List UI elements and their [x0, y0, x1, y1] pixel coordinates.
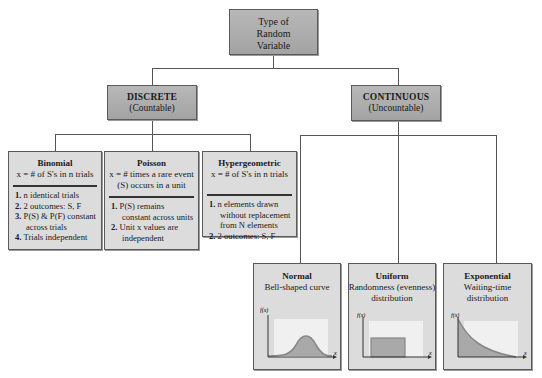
- binomial-item-2: 2. 2 outcomes: S, F: [15, 201, 97, 212]
- continuous-subtitle: (Uncountable): [352, 103, 440, 114]
- connector-continuous-down: [398, 121, 399, 263]
- hypergeometric-definition: x = # of S's in n trials: [206, 169, 293, 180]
- connector-continuous-horizontal: [300, 135, 497, 136]
- binomial-divider: [13, 185, 97, 187]
- binomial-name: Binomial: [12, 158, 98, 169]
- normal-name: Normal: [254, 271, 340, 282]
- exponential-decay-plot: f(x) x: [450, 313, 528, 363]
- continuous-node: CONTINUOUS (Uncountable): [351, 85, 441, 121]
- normal-bell-curve-plot: f(x) x: [260, 305, 338, 363]
- hypergeometric-name: Hypergeometric: [206, 158, 293, 169]
- poisson-item-2: 2. Unit x values are independent: [111, 222, 194, 243]
- exponential-name: Exponential: [444, 271, 531, 282]
- hypergeometric-item-1: 1. n elements drawn without replacement …: [209, 199, 292, 231]
- connector-to-exponential: [496, 135, 497, 263]
- uniform-rectangle-plot: f(x) x: [355, 313, 433, 363]
- root-title-line-3: Variable: [230, 40, 317, 52]
- poisson-definition: x = # times a rare event (S) occurs in a…: [108, 169, 195, 191]
- connector-discrete-horizontal: [55, 134, 251, 135]
- connector-to-binomial: [55, 134, 56, 151]
- svg-text:f(x): f(x): [357, 313, 365, 319]
- connector-to-continuous: [398, 68, 399, 85]
- connector-to-hypergeometric: [250, 134, 251, 151]
- hypergeometric-node: Hypergeometric x = # of S's in n trials …: [202, 151, 297, 237]
- svg-text:x: x: [428, 350, 432, 356]
- normal-node: Normal Bell-shaped curve f(x) x: [253, 263, 341, 370]
- hypergeometric-divider: [207, 194, 292, 196]
- binomial-node: Binomial x = # of S's in n trials 1. n i…: [8, 151, 102, 250]
- connector-discrete-down: [152, 120, 153, 151]
- svg-text:x: x: [333, 350, 337, 356]
- connector-root-down: [273, 55, 274, 68]
- poisson-divider: [109, 196, 194, 198]
- svg-text:f(x): f(x): [260, 307, 268, 314]
- discrete-title: DISCRETE: [108, 86, 196, 103]
- exponential-description-line-1: Waiting-time: [444, 282, 531, 293]
- discrete-subtitle: (Countable): [108, 103, 196, 114]
- root-title-line-1: Type of: [230, 16, 317, 28]
- uniform-description-line-2: distribution: [349, 293, 435, 304]
- root-node: Type of Random Variable: [229, 9, 318, 55]
- poisson-item-1: 1. P(S) remains constant across units: [111, 201, 194, 222]
- discrete-node: DISCRETE (Countable): [107, 85, 197, 120]
- normal-description: Bell-shaped curve: [254, 282, 340, 293]
- binomial-item-3: 3. P(S) & P(F) constant across trials: [15, 211, 97, 232]
- uniform-name: Uniform: [349, 271, 435, 282]
- connector-top-horizontal: [152, 68, 399, 69]
- exponential-description-line-2: distribution: [444, 293, 531, 304]
- poisson-node: Poisson x = # times a rare event (S) occ…: [104, 151, 199, 250]
- connector-to-discrete: [152, 68, 153, 85]
- binomial-definition: x = # of S's in n trials: [12, 169, 98, 180]
- binomial-item-1: 1. n identical trials: [15, 190, 97, 201]
- uniform-description-line-1: Randomness (evenness): [346, 282, 438, 293]
- hypergeometric-item-2: 2. 2 outcomes: S, F: [209, 231, 292, 242]
- exponential-node: Exponential Waiting-time distribution f(…: [443, 263, 532, 370]
- root-title-line-2: Random: [230, 28, 317, 40]
- binomial-item-4: 4. Trials independent: [15, 232, 97, 243]
- connector-to-normal: [300, 135, 301, 263]
- uniform-node: Uniform Randomness (evenness) distributi…: [348, 263, 436, 370]
- poisson-name: Poisson: [108, 158, 195, 169]
- continuous-title: CONTINUOUS: [352, 86, 440, 103]
- svg-text:x: x: [523, 350, 527, 356]
